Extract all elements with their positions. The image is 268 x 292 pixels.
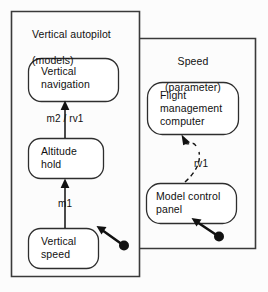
- state-label-vertical-speed: Vertical speed: [41, 235, 97, 261]
- region-title-vertical-autopilot-line1: Vertical autopilot: [32, 28, 111, 40]
- transition-label-rv1: rv1: [187, 158, 215, 171]
- state-label-model-control-panel: Model control panel: [156, 190, 236, 216]
- transition-label-m1: m1: [50, 198, 80, 211]
- transition-label-m2-rv1: m2 / rv1: [36, 113, 94, 126]
- region-title-speed: Speed (parameter): [147, 42, 239, 94]
- state-label-flight-management-computer: Flight management computer: [160, 89, 238, 127]
- state-label-vertical-navigation: Vertical navigation: [41, 65, 113, 91]
- region-title-speed-line1: Speed: [178, 55, 209, 67]
- state-label-altitude-hold: Altitude hold: [41, 145, 101, 171]
- uml-state-diagram: Vertical autopilot (models) Speed (param…: [0, 0, 268, 292]
- region-title-vertical-autopilot: Vertical autopilot (models): [32, 15, 136, 67]
- connector-vertical-speed-ball-connector: [97, 226, 130, 251]
